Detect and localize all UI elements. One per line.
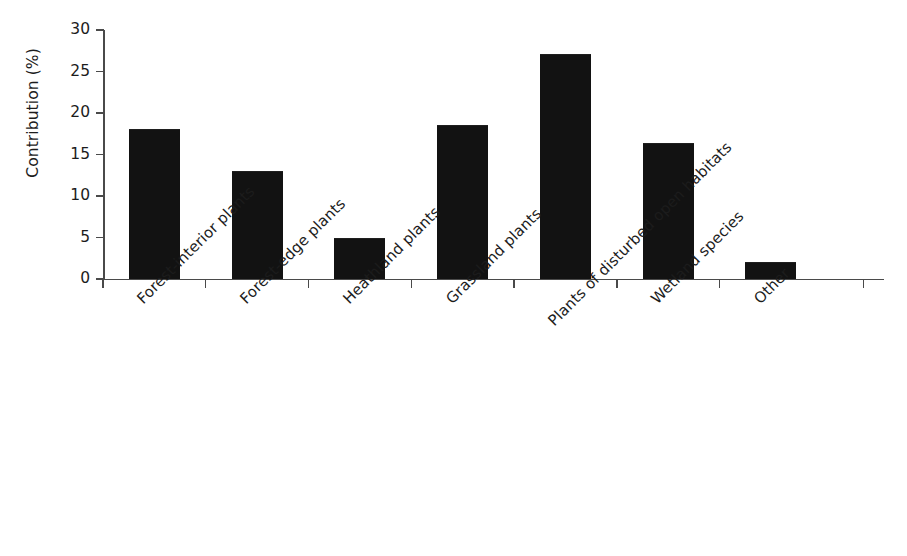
bar-chart: Contribution (%) 051015202530 Forest-int… xyxy=(0,0,907,556)
y-tick-label: 25 xyxy=(50,64,90,80)
y-tick-label: 15 xyxy=(50,147,90,163)
y-tick-mark xyxy=(96,154,104,155)
x-tick-mark xyxy=(205,279,206,288)
y-tick-label: 0 xyxy=(50,271,90,287)
x-tick-mark xyxy=(513,279,514,288)
y-tick-mark xyxy=(96,71,104,72)
bar xyxy=(540,54,591,279)
x-tick-mark xyxy=(719,279,720,288)
x-tick-mark xyxy=(102,279,103,288)
x-tick-mark xyxy=(308,279,309,288)
y-tick-mark xyxy=(96,29,104,30)
y-tick-mark xyxy=(96,112,104,113)
y-tick-mark xyxy=(96,195,104,196)
x-tick-mark xyxy=(616,279,617,288)
y-axis-label: Contribution (%) xyxy=(24,0,46,238)
y-tick-label: 30 xyxy=(50,22,90,38)
y-tick-label: 20 xyxy=(50,105,90,121)
y-tick-mark xyxy=(96,237,104,238)
y-tick-label: 10 xyxy=(50,188,90,204)
x-tick-mark xyxy=(411,279,412,288)
x-tick-mark xyxy=(863,279,864,288)
y-tick-label: 5 xyxy=(50,230,90,246)
